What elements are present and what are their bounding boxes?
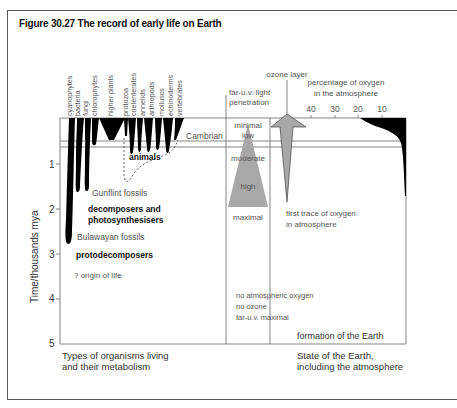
y-tick-4: 4 — [49, 293, 55, 304]
cambrian-label: Cambrian — [186, 131, 223, 141]
organism-ranges — [65, 118, 184, 244]
animals-label: animals — [129, 152, 161, 162]
label-molluscs: molluscs — [157, 88, 166, 116]
oxygen-tick-30: 30 — [330, 104, 340, 114]
oxygen-header-1: percentage of oxygen — [308, 78, 385, 87]
uv-level-maximal: maximal — [233, 213, 263, 222]
oxygen-tick-10: 10 — [377, 104, 387, 114]
ozone-arrow — [271, 114, 306, 202]
range-bacteria — [76, 118, 84, 192]
y-tick-3: 3 — [49, 249, 55, 260]
right-footer-line1: State of the Earth, — [297, 350, 374, 361]
range-echinoderms — [163, 118, 173, 153]
label-arthropods: arthropods — [147, 81, 156, 116]
far-uv-maximal-label: far-u.v. maximal — [236, 313, 289, 322]
y-axis: 1 2 3 4 5 Time/thousands mya — [29, 159, 60, 349]
label-echinoderms: echinoderms — [166, 74, 175, 116]
range-protozoa — [124, 118, 128, 136]
uv-level-moderate: moderate — [231, 154, 265, 163]
uv-header-2: penetration — [229, 98, 269, 107]
oxygen-level-curve — [360, 118, 406, 196]
uv-header-1: far-u.v. light — [229, 88, 271, 97]
earth-state: no atmospheric oxygen no ozone far-u.v. … — [236, 291, 403, 372]
label-chlorophytes: chlorophytes — [90, 75, 99, 116]
left-footer-line1: Types of organisms living — [62, 350, 169, 361]
oxygen-section: percentage of oxygen in the atmosphere 4… — [286, 78, 406, 229]
oxygen-tick-20: 20 — [353, 104, 363, 114]
oxygen-header-2: in the atmosphere — [314, 89, 379, 98]
label-fungi: fungi — [81, 100, 90, 116]
oxygen-tick-40: 40 — [306, 104, 316, 114]
organism-labels: cyanophytes bacteria fungi chlorophytes … — [65, 72, 184, 116]
origin-of-life-label: ? origin of life — [74, 271, 122, 280]
ozone-label: ozone layer — [266, 70, 308, 79]
range-vertebrates — [174, 118, 184, 140]
y-tick-2: 2 — [49, 204, 55, 215]
no-oxygen-label: no atmospheric oxygen — [236, 291, 314, 300]
gunflint-label: Gunflint fossils — [92, 188, 147, 198]
first-trace-line1: first trace of oxygen — [286, 209, 356, 218]
formation-label: formation of the Earth — [297, 331, 384, 341]
label-higher-plants: higher plants — [106, 74, 115, 116]
uv-level-high: high — [240, 182, 255, 191]
no-ozone-label: no ozone — [236, 302, 267, 311]
protodecomposers-label: protodecomposers — [76, 250, 153, 260]
y-tick-5: 5 — [49, 338, 55, 349]
uv-level-low: low — [242, 131, 254, 140]
decomposers-label-1: decomposers and — [88, 204, 161, 214]
label-annelids: annelids — [138, 89, 147, 116]
range-coelenterates — [128, 118, 136, 154]
first-trace-line2: in atmosphere — [286, 220, 337, 229]
y-tick-1: 1 — [49, 159, 55, 170]
decomposers-label-2: photosynthesisers — [88, 215, 164, 225]
uv-level-minimal: minimal — [234, 121, 262, 130]
y-axis-label: Time/thousands mya — [29, 210, 40, 303]
label-vertebrates: vertebrates — [175, 80, 184, 116]
range-cyanophytes — [65, 118, 75, 244]
right-footer-line2: including the atmosphere — [297, 361, 403, 372]
label-coelenterates: coelenterates — [129, 72, 138, 116]
left-footer-line2: and their metabolism — [62, 361, 150, 372]
range-higher-plants — [99, 118, 125, 140]
bulawayan-label: Bulawayan fossils — [77, 232, 145, 242]
uv-column: far-u.v. light penetration minimal low m… — [228, 88, 271, 222]
range-molluscs — [155, 118, 162, 150]
